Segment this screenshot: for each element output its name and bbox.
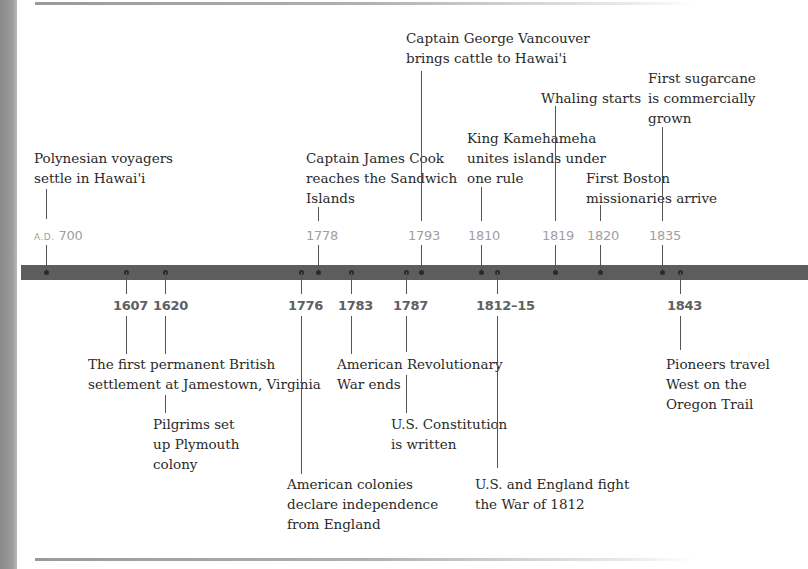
connector-1778-bar: [318, 245, 319, 270]
connector-1810-label: [481, 187, 482, 221]
event-label-1783: American Revolutionary War ends: [337, 354, 503, 394]
connector-1620-label-lower: [165, 395, 166, 413]
connector-1607-label: [126, 316, 127, 354]
connector-1843-bar: [680, 272, 681, 294]
connector-1783-label: [351, 316, 352, 354]
connector-1812-15-bar: [497, 272, 498, 294]
event-label-1793: Captain George Vancouver brings cattle t…: [406, 28, 590, 68]
event-label-1820: First Boston missionaries arrive: [586, 168, 717, 208]
event-label-1843: Pioneers travel West on the Oregon Trail: [666, 354, 770, 414]
event-date-1776: 1776: [288, 298, 323, 314]
connector-1819-label: [555, 106, 556, 221]
connector-1787-label: [406, 316, 407, 352]
connector-1776-bar: [301, 272, 302, 294]
event-date-700: A.D. 700: [34, 228, 82, 245]
dot-1820: [598, 270, 603, 275]
dot-1778: [316, 270, 321, 275]
event-label-1607: The first permanent British settlement a…: [88, 354, 321, 394]
bottom-rule: [35, 558, 695, 561]
event-label-1835: First sugarcane is commercially grown: [648, 68, 756, 128]
connector-1787-bar: [406, 272, 407, 294]
event-date-1778: 1778: [306, 228, 338, 244]
connector-1810-bar: [481, 245, 482, 270]
event-date-1843: 1843: [667, 298, 702, 314]
connector-1820-label: [600, 205, 601, 221]
connector-1819-bar: [555, 245, 556, 270]
top-rule: [35, 2, 695, 5]
connector-1783-bar: [351, 272, 352, 294]
dot-1819: [553, 270, 558, 275]
event-date-1835: 1835: [649, 228, 681, 244]
dot-700: [44, 270, 49, 275]
connector-700-label: [46, 189, 47, 219]
connector-700-bar: [46, 245, 47, 270]
connector-1820-bar: [600, 245, 601, 270]
connector-1812-15-label: [497, 316, 498, 468]
event-label-1812-15: U.S. and England fight the War of 1812: [475, 474, 629, 514]
connector-1835-bar: [662, 245, 663, 270]
connector-1793-label: [421, 71, 422, 221]
event-date-1819: 1819: [542, 228, 574, 244]
event-date-1810: 1810: [468, 228, 500, 244]
connector-1778-label: [318, 207, 319, 221]
connector-1843-label: [680, 316, 681, 350]
event-date-1787: 1787: [393, 298, 428, 314]
event-date-1607: 1607: [113, 298, 148, 314]
event-label-1778: Captain James Cook reaches the Sandwich …: [306, 148, 457, 208]
event-date-1793: 1793: [408, 228, 440, 244]
side-stripe: [0, 0, 17, 569]
dot-1835: [660, 270, 665, 275]
connector-1607-bar: [126, 272, 127, 294]
event-date-1820: 1820: [587, 228, 619, 244]
dot-1793: [419, 270, 424, 275]
connector-1793-bar: [421, 245, 422, 270]
connector-1620-bar: [165, 272, 166, 294]
connector-1835-label: [662, 127, 663, 221]
connector-1787-label-lower: [406, 375, 407, 413]
event-label-1620: Pilgrims set up Plymouth colony: [153, 414, 239, 474]
event-date-1620: 1620: [153, 298, 188, 314]
event-date-1783: 1783: [338, 298, 373, 314]
timeline-bar: [21, 265, 808, 280]
event-label-700: Polynesian voyagers settle in Hawai'i: [34, 148, 173, 188]
event-label-1787: U.S. Constitution is written: [391, 414, 507, 454]
event-date-1812-15: 1812–15: [476, 298, 535, 314]
event-label-1776: American colonies declare independence f…: [287, 474, 438, 534]
dot-1810: [479, 270, 484, 275]
connector-1620-label: [165, 316, 166, 354]
connector-1776-label: [301, 316, 302, 474]
event-label-1819: Whaling starts: [541, 88, 641, 108]
